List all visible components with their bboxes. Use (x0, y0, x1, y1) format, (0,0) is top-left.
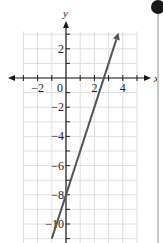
x-tick-label: 4 (120, 81, 126, 95)
y-axis-up-arrow-icon (63, 21, 69, 28)
x-axis-left-arrow-icon (8, 75, 15, 81)
x-tick-label: 0 (57, 81, 63, 95)
grid (23, 31, 137, 243)
panel-divider (157, 14, 159, 243)
y-axis-label: y (62, 7, 68, 19)
bullet-icon (151, 0, 163, 14)
coordinate-plane: xy −20242−2−4−6−8−10 (0, 0, 163, 243)
axes: xy (8, 7, 159, 243)
y-tick-label: −2 (51, 100, 64, 114)
y-tick-label: −6 (51, 159, 64, 173)
y-tick-label: −4 (51, 129, 64, 143)
y-tick-label: 2 (58, 42, 64, 56)
y-tick-label: −8 (51, 188, 64, 202)
x-tick-label: −2 (31, 81, 44, 95)
x-axis-right-arrow-icon (144, 75, 151, 81)
x-tick-label: 2 (91, 81, 97, 95)
